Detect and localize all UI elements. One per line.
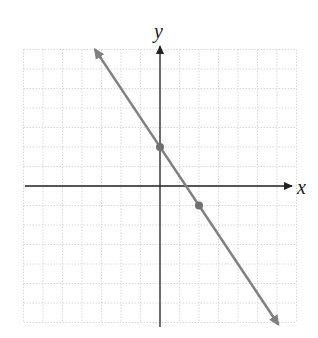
coordinate-plane [0,0,318,338]
y-axis-label: y [154,20,163,43]
x-axis-label: x [297,176,306,199]
